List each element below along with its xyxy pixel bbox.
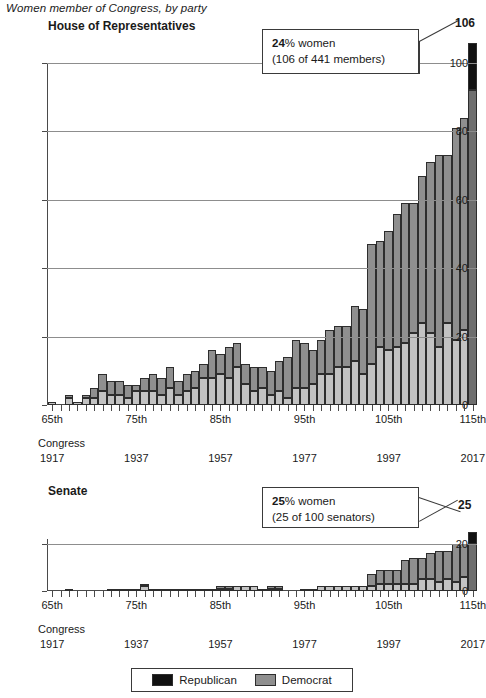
x-year-label: 1957 — [208, 452, 232, 464]
x-tick-mark — [216, 591, 224, 597]
bar-column — [241, 63, 249, 405]
x-tick-mark — [351, 591, 359, 597]
bar-segment-democrat — [132, 385, 140, 392]
senate-bar-series — [48, 539, 477, 591]
bar-segment-democrat — [376, 570, 384, 584]
bar-segment-republican — [393, 347, 401, 405]
x-tick-mark — [468, 591, 476, 597]
x-tick-mark — [283, 405, 291, 411]
y-tick-label: 20 — [456, 538, 468, 550]
bar-column — [393, 539, 401, 591]
x-tick-mark — [443, 405, 451, 411]
bar-segment-democrat — [342, 326, 350, 367]
bar-column — [384, 539, 392, 591]
x-tick-mark — [56, 591, 64, 597]
bar-column — [56, 539, 64, 591]
senate-end-value-label: 25 — [458, 498, 471, 512]
x-tick-mark — [216, 405, 224, 411]
bar-segment-democrat — [199, 364, 207, 378]
bar-segment-democrat — [107, 381, 115, 395]
x-tick-mark — [292, 591, 300, 597]
x-tick-mark — [384, 591, 392, 597]
x-tick-label: 85th — [210, 599, 231, 611]
x-tick-mark — [157, 405, 165, 411]
bar-column — [98, 63, 106, 405]
x-tick-mark — [401, 405, 409, 411]
bar-segment-democrat — [418, 176, 426, 323]
bar-column — [124, 539, 132, 591]
bar-segment-republican — [225, 378, 233, 405]
bar-column — [48, 539, 56, 591]
y-tick-label: 40 — [456, 262, 468, 274]
bar-column — [216, 63, 224, 405]
bar-segment-democrat — [283, 357, 291, 398]
x-tick-mark — [435, 405, 443, 411]
x-tick-mark — [334, 591, 342, 597]
x-year-label: 1977 — [292, 452, 316, 464]
x-tick-mark — [460, 405, 468, 411]
legend-swatch-republican — [152, 674, 173, 686]
bar-segment-republican — [107, 395, 115, 405]
bar-column — [241, 539, 249, 591]
bar-segment-republican — [401, 584, 409, 591]
bar-column — [292, 539, 300, 591]
bar-column — [233, 63, 241, 405]
bar-column — [342, 539, 350, 591]
bar-column — [149, 63, 157, 405]
bar-column — [409, 539, 417, 591]
x-tick-mark — [393, 405, 401, 411]
bar-column — [48, 63, 56, 405]
bar-segment-democrat — [233, 343, 241, 367]
bar-segment-republican — [82, 398, 90, 405]
bar-segment-democrat — [149, 374, 157, 391]
bar-segment-republican — [149, 391, 157, 405]
bar-column — [107, 63, 115, 405]
bar-segment-republican — [325, 374, 333, 405]
bar-segment-democrat — [157, 378, 165, 395]
x-tick-mark — [418, 405, 426, 411]
bar-segment-republican — [183, 391, 191, 405]
bar-segment-republican — [140, 391, 148, 405]
bar-column — [225, 539, 233, 591]
x-tick-mark — [342, 405, 350, 411]
x-tick-mark — [309, 405, 317, 411]
bar-segment-republican — [393, 584, 401, 591]
bar-column — [140, 539, 148, 591]
bar-segment-democrat — [98, 374, 106, 391]
senate-chart-plot-area: 020 — [47, 539, 477, 591]
x-tick-mark — [199, 591, 207, 597]
house-callout-detail: (106 of 441 members) — [272, 53, 385, 65]
bar-column — [90, 63, 98, 405]
bar-segment-republican — [468, 43, 476, 91]
x-year-label: 1917 — [40, 638, 64, 650]
y-tick-mark — [42, 405, 47, 406]
bar-column — [250, 63, 258, 405]
bar-segment-republican — [216, 374, 224, 405]
bar-column — [384, 63, 392, 405]
bar-segment-republican — [443, 579, 451, 591]
bar-segment-democrat — [351, 306, 359, 361]
y-tick-mark — [42, 63, 47, 64]
bar-segment-democrat — [468, 90, 476, 405]
bar-column — [309, 539, 317, 591]
x-tick-label: 115th — [459, 599, 486, 611]
x-tick-mark — [90, 591, 98, 597]
bar-segment-republican — [435, 347, 443, 405]
x-tick-mark — [418, 591, 426, 597]
x-tick-mark — [132, 405, 140, 411]
bar-segment-democrat — [376, 241, 384, 347]
x-tick-mark — [107, 405, 115, 411]
x-tick-mark — [56, 405, 64, 411]
bar-segment-democrat — [443, 155, 451, 323]
x-tick-mark — [65, 591, 73, 597]
bar-column — [258, 539, 266, 591]
house-chart-plot-area: 020406080100 — [47, 63, 477, 405]
x-tick-label: 105th — [375, 599, 403, 611]
bar-segment-democrat — [225, 347, 233, 378]
x-tick-mark — [82, 405, 90, 411]
x-year-label: 1937 — [124, 638, 148, 650]
bar-column — [468, 539, 476, 591]
bar-segment-democrat — [309, 350, 317, 384]
bar-column — [426, 63, 434, 405]
bar-segment-democrat — [468, 544, 476, 591]
